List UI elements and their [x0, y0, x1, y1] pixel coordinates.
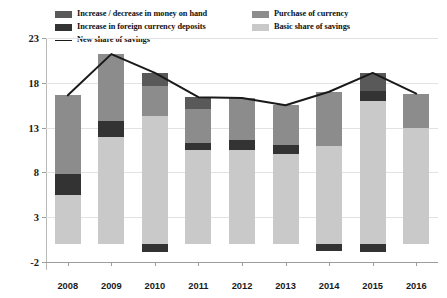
x-axis-tick-label: 2008 [57, 281, 78, 291]
legend-item-label: Purchase of currency [274, 9, 348, 19]
legend-item-label: Basic share of savings [274, 22, 350, 32]
y-axis-tick-label: 18 [29, 77, 40, 88]
legend-swatch-icon [55, 11, 72, 18]
legend-swatch-icon [252, 24, 269, 31]
y-axis-tick-label: 8 [34, 167, 39, 178]
legend-item-label: Increase in foreign currency deposits [77, 22, 206, 32]
plot-area: 23181383-2 20082009201020112012201320142… [46, 38, 438, 262]
y-axis-tick-label: 3 [34, 212, 39, 223]
x-axis-tick [329, 262, 330, 266]
x-axis-tick [416, 262, 417, 266]
legend-swatch-icon [55, 24, 72, 31]
y-axis-tick-label: 23 [29, 33, 40, 44]
legend-swatch-icon [252, 11, 269, 18]
legend-item-label: Increase / decrease in money on hand [77, 9, 207, 19]
line-path [68, 54, 416, 105]
x-axis-tick [68, 262, 69, 266]
x-axis-tick-label: 2009 [101, 281, 122, 291]
x-axis-tick [286, 262, 287, 266]
x-axis-tick [111, 262, 112, 266]
x-axis-tick-label: 2013 [275, 281, 296, 291]
x-axis-tick [242, 262, 243, 266]
x-axis-tick-label: 2015 [362, 281, 383, 291]
x-axis-tick [155, 262, 156, 266]
x-axis-tick-label: 2011 [188, 281, 208, 291]
y-axis-tick [42, 262, 46, 263]
line-series-new-share-of-savings [46, 38, 438, 262]
legend-item-foreign-currency-deposits: Increase in foreign currency deposits [55, 21, 207, 33]
legend-item-money-on-hand: Increase / decrease in money on hand [55, 8, 207, 20]
stacked-bar-chart: Increase / decrease in money on hand Inc… [0, 0, 447, 298]
x-axis-tick-label: 2014 [319, 281, 340, 291]
x-axis-tick-label: 2010 [145, 281, 166, 291]
legend-item-basic-share-of-savings: Basic share of savings [252, 21, 350, 33]
y-axis-tick-label: -2 [30, 257, 39, 268]
legend-item-purchase-of-currency: Purchase of currency [252, 8, 350, 20]
x-axis-tick-label: 2016 [406, 281, 427, 291]
legend-column-right: Purchase of currency Basic share of savi… [252, 8, 350, 34]
x-axis-tick [373, 262, 374, 266]
y-axis-tick-label: 13 [29, 122, 40, 133]
x-axis-tick [198, 262, 199, 266]
x-axis-tick-label: 2012 [232, 281, 253, 291]
